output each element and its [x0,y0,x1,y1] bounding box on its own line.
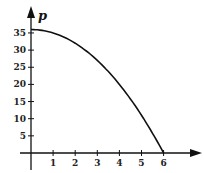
y-tick-label: 10 [13,114,26,124]
y-axis-arrow-icon [27,6,35,18]
y-tick-label: 20 [13,79,26,89]
y-axis-label: p [38,8,47,23]
y-tick-label: 15 [13,97,26,107]
x-tick-label: 2 [72,158,78,168]
y-tick-label: 5 [20,131,26,141]
data-curve [31,30,164,154]
x-tick-label: 3 [94,158,100,168]
x-axis [20,149,202,157]
x-tick-label: 5 [138,158,144,168]
x-tick-label: 4 [116,158,122,168]
y-tick-label: 25 [13,62,26,72]
x-tick-label: 6 [160,158,166,168]
x-axis-arrow-icon [190,149,202,157]
y-axis [27,6,35,170]
y-tick-label: 35 [13,28,26,38]
x-tick-label: 1 [50,158,56,168]
y-tick-label: 30 [13,45,26,55]
chart: p 123456 5101520253035 [0,0,204,173]
